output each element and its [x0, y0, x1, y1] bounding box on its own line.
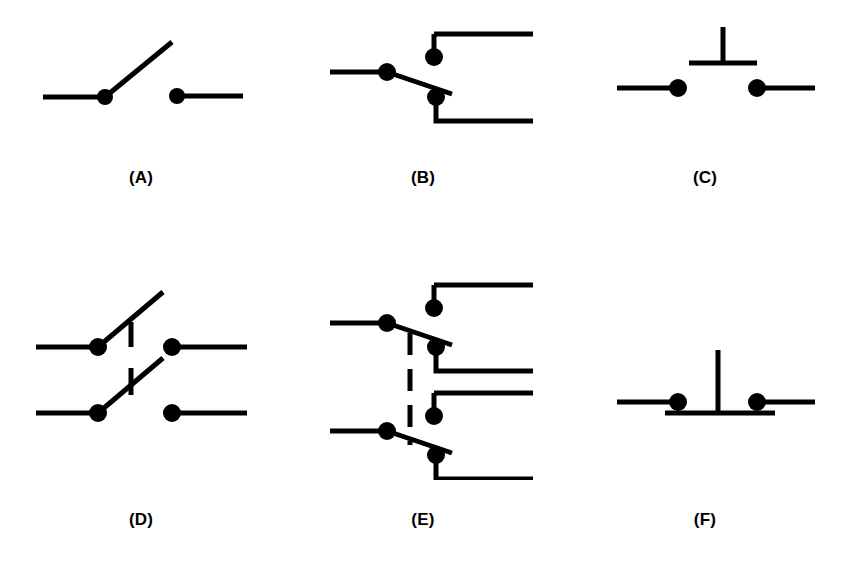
figure-dpst-switch — [0, 270, 282, 470]
dpdt-switch-symbol — [282, 270, 564, 480]
pivot-terminal-dot — [97, 89, 113, 105]
upper-pivot-dot — [89, 338, 107, 356]
normally-open-pushbutton-symbol — [564, 0, 846, 150]
upper-no-contact-dot — [427, 338, 445, 356]
figure-normally-open-pushbutton — [564, 0, 846, 150]
right-terminal-dot — [169, 88, 185, 104]
figure-spdt-switch — [282, 0, 564, 150]
lower-contact-dot — [427, 88, 445, 106]
lower-pivot-dot — [89, 404, 107, 422]
lower-no-contact-dot — [427, 446, 445, 464]
spdt-switch-symbol — [282, 0, 564, 150]
figure-label-c: (C) — [564, 168, 846, 188]
upper-common-dot — [378, 314, 396, 332]
left-terminal-dot — [669, 393, 687, 411]
lower-contact-dot — [163, 404, 181, 422]
right-terminal-dot — [748, 393, 766, 411]
switch-symbol-sheet: (A) (B) (C) — [0, 0, 846, 566]
spst-switch-symbol — [0, 0, 282, 150]
figure-label-f: (F) — [564, 510, 846, 530]
figure-label-d: (D) — [0, 510, 282, 530]
upper-no-output-wire — [436, 347, 533, 371]
upper-contact-dot — [425, 48, 443, 66]
figure-spst-switch — [0, 0, 282, 150]
normally-closed-pushbutton-symbol — [564, 340, 846, 460]
common-terminal-dot — [378, 63, 396, 81]
right-terminal-dot — [748, 79, 766, 97]
figure-label-e: (E) — [282, 510, 564, 530]
upper-contact-dot — [163, 338, 181, 356]
lower-common-dot — [378, 422, 396, 440]
figure-label-b: (B) — [282, 168, 564, 188]
figure-dpdt-switch — [282, 270, 564, 480]
left-terminal-dot — [669, 79, 687, 97]
switch-blade — [105, 42, 172, 97]
lower-nc-contact-dot — [425, 407, 443, 425]
figure-normally-closed-pushbutton — [564, 340, 846, 460]
lower-no-output-wire — [436, 455, 533, 479]
lower-output-wire — [436, 97, 533, 121]
upper-nc-contact-dot — [425, 299, 443, 317]
figure-label-a: (A) — [0, 168, 282, 188]
dpst-switch-symbol — [0, 270, 282, 470]
